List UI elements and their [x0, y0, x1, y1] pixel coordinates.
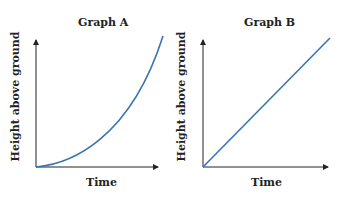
graph-b-title: Graph B	[244, 16, 295, 29]
graph-b-ylabel: Height above ground	[175, 42, 188, 162]
graph-a-curve	[36, 36, 163, 167]
graph-b-line	[203, 38, 330, 167]
graph-a-axes	[36, 40, 158, 167]
graph-a-title: Graph A	[78, 16, 128, 29]
charts-canvas	[0, 0, 341, 202]
graph-b-xlabel: Time	[251, 176, 282, 189]
graph-a-ylabel: Height above ground	[9, 42, 22, 162]
graph-a-xlabel: Time	[86, 176, 117, 189]
